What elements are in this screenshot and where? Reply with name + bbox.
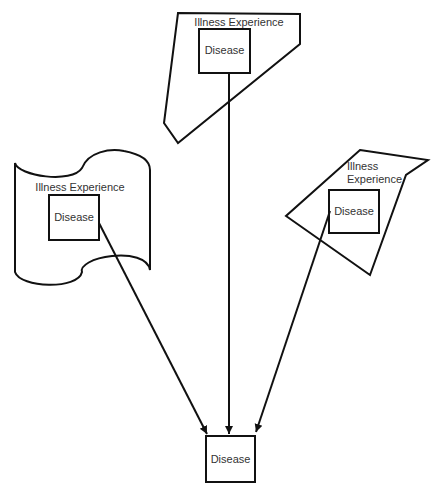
- top-illness-experience-group: Illness Experience Disease: [164, 13, 300, 143]
- left-illness-experience-label: Illness Experience: [35, 181, 124, 193]
- left-disease-label: Disease: [54, 211, 94, 223]
- right-illness-experience-label-line2: Experience: [347, 173, 402, 185]
- edges: [99, 73, 330, 434]
- edge-left-to-target: [99, 223, 207, 434]
- top-illness-experience-label: Illness Experience: [194, 16, 283, 28]
- right-disease-label: Disease: [334, 205, 374, 217]
- top-disease-label: Disease: [205, 44, 245, 56]
- right-illness-experience-label-line1: Illness: [347, 160, 379, 172]
- right-illness-experience-group: Illness Experience Disease: [286, 150, 428, 275]
- target-disease-label: Disease: [211, 453, 251, 465]
- target-disease-group: Disease: [206, 436, 255, 482]
- edge-right-to-target: [256, 211, 330, 432]
- diagram-canvas: Illness Experience Disease Illness Exper…: [0, 0, 442, 494]
- left-illness-experience-group: Illness Experience Disease: [15, 150, 150, 285]
